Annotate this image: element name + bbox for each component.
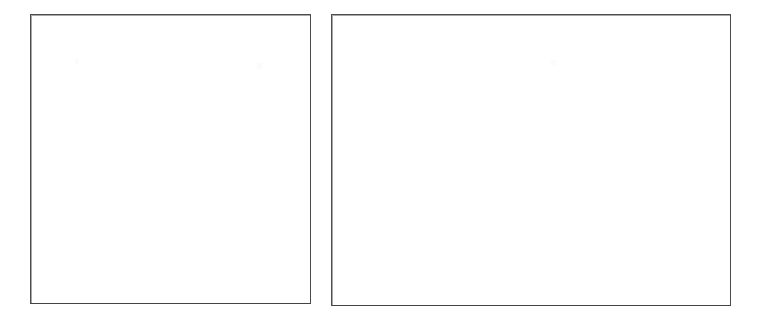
scan-speckle	[75, 59, 79, 64]
scan-speckle	[551, 60, 556, 65]
right-figure-interior	[332, 15, 730, 305]
right-figure-placeholder[interactable]	[331, 14, 731, 306]
left-figure-placeholder[interactable]	[30, 14, 311, 304]
left-figure-interior	[31, 15, 310, 303]
scan-speckle	[257, 63, 262, 69]
page-canvas	[0, 0, 759, 330]
